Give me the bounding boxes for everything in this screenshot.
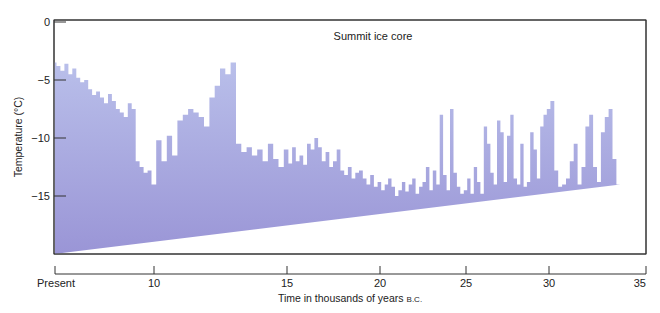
x-axis-title-main: Time in thousands of years (278, 292, 404, 304)
chart-title: Summit ice core (334, 30, 413, 42)
x-tick-label: 30 (543, 277, 555, 289)
y-tick-label: 0 (44, 16, 50, 28)
x-axis-title-suffix: B.C. (407, 295, 423, 304)
x-tick-label: 15 (281, 277, 293, 289)
x-axis-ticks: Present101520253035 (37, 266, 646, 289)
x-tick-label: 25 (460, 277, 472, 289)
x-tick-label: 35 (634, 277, 646, 289)
temperature-chart: 0−5−10−15 Present101520253035 Summit ice… (0, 0, 660, 313)
y-tick-label: −5 (37, 74, 50, 86)
x-axis-title: Time in thousands of yearsB.C. (278, 292, 422, 304)
y-tick-label: −15 (31, 190, 50, 202)
x-tick-label: 10 (148, 277, 160, 289)
y-axis-title: Temperature (°C) (12, 97, 24, 178)
x-tick-label: Present (37, 277, 75, 289)
y-tick-label: −10 (31, 132, 50, 144)
x-tick-label: 20 (374, 277, 386, 289)
